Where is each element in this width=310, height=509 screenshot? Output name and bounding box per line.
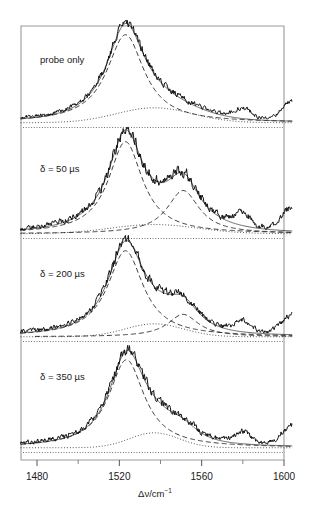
panel-label: δ = 200 µs (40, 268, 85, 279)
x-tick-label: 1560 (191, 471, 214, 482)
panel-label: δ = 50 µs (40, 163, 80, 174)
spectra-figure: 1480152015601600 probe onlyδ = 50 µsδ = … (0, 0, 310, 509)
panel-label: probe only (40, 54, 85, 65)
x-tick-label: 1600 (273, 471, 296, 482)
spectra-plot: 1480152015601600 probe onlyδ = 50 µsδ = … (0, 0, 310, 509)
x-axis-title-exponent: −1 (164, 487, 172, 494)
x-tick-label: 1480 (26, 471, 49, 482)
x-tick-label: 1520 (108, 471, 131, 482)
panel-label: δ = 350 µs (40, 371, 85, 382)
x-axis-title-main: Δν/cm (138, 488, 164, 499)
